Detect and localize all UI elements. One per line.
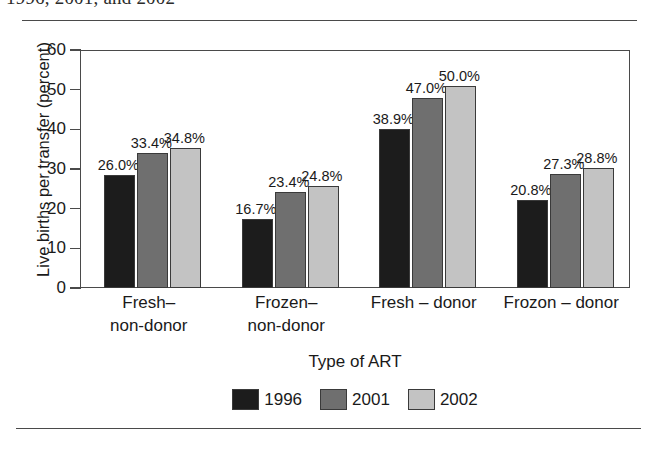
y-axis-tick — [70, 248, 81, 249]
bar-value-label: 34.8% — [164, 131, 205, 146]
y-axis-tick-label: 0 — [22, 279, 66, 296]
bar — [170, 148, 201, 288]
x-axis-category-label-line: non-donor — [70, 315, 228, 338]
y-axis-tick — [70, 168, 81, 169]
y-axis-tick — [70, 287, 81, 288]
bar — [550, 174, 581, 288]
legend-label: 2001 — [352, 391, 390, 408]
bar-value-label: 38.9% — [373, 112, 414, 127]
x-axis-category-label: Frozen–non-donor — [208, 292, 366, 337]
legend-swatch — [320, 389, 347, 410]
x-axis-category-label: Frozon – donor — [483, 292, 641, 315]
bar — [583, 168, 614, 288]
y-axis-tick-label: 40 — [22, 120, 66, 137]
y-axis-tick — [70, 89, 81, 90]
bar — [379, 129, 410, 288]
chart-legend: 199620012002 — [80, 384, 630, 414]
y-axis-tick — [70, 49, 81, 50]
bars-layer: 26.0%33.4%34.8%16.7%23.4%24.8%38.9%47.0%… — [80, 50, 630, 288]
x-axis-category-label-line: Fresh – donor — [345, 292, 503, 315]
x-axis-category-label-line: Frozen– — [208, 292, 366, 315]
x-axis-category-label: Fresh – donor — [345, 292, 503, 315]
x-axis-category-label-line: non-donor — [208, 315, 366, 338]
x-axis-category-labels: Fresh–non-donorFrozen–non-donorFresh – d… — [80, 292, 630, 348]
figure-rule-top — [22, 20, 637, 21]
bar-value-label: 16.7% — [235, 202, 276, 217]
bar-chart: Live births per transfer (percent) 01020… — [0, 22, 659, 422]
bar — [275, 192, 306, 288]
legend-label: 2002 — [440, 391, 478, 408]
x-axis-category-label: Fresh–non-donor — [70, 292, 228, 337]
bar — [242, 219, 273, 288]
y-axis-tick-label: 20 — [22, 200, 66, 217]
legend-item[interactable]: 2002 — [408, 389, 478, 410]
x-axis-category-label-line: Frozon – donor — [483, 292, 641, 315]
figure-rule-bottom — [16, 428, 641, 429]
bar — [445, 86, 476, 288]
bar-value-label: 28.8% — [576, 151, 617, 166]
bar — [517, 200, 548, 288]
figure-caption-text: 1996, 2001, and 2002 — [6, 0, 175, 9]
y-axis-tick-label: 50 — [22, 81, 66, 98]
legend-item[interactable]: 1996 — [232, 389, 302, 410]
bar — [104, 175, 135, 288]
bar — [137, 153, 168, 288]
y-axis-tick-label: 10 — [22, 239, 66, 256]
figure-caption-clipped: 1996, 2001, and 2002 — [0, 0, 659, 12]
x-axis-title: Type of ART — [80, 352, 630, 372]
y-axis-tick-label: 30 — [22, 160, 66, 177]
bar — [308, 186, 339, 288]
legend-swatch — [232, 389, 259, 410]
legend-swatch — [408, 389, 435, 410]
y-axis-tick — [70, 129, 81, 130]
bar-value-label: 26.0% — [98, 158, 139, 173]
y-axis-tick-labels: 0102030405060 — [14, 22, 66, 322]
y-axis-tick-label: 60 — [22, 41, 66, 58]
legend-label: 1996 — [264, 391, 302, 408]
bar-value-label: 50.0% — [439, 69, 480, 84]
bar-value-label: 20.8% — [510, 183, 551, 198]
bar-value-label: 24.8% — [301, 169, 342, 184]
x-axis-category-label-line: Fresh– — [70, 292, 228, 315]
legend-item[interactable]: 2001 — [320, 389, 390, 410]
bar — [412, 98, 443, 288]
y-axis-tick — [70, 208, 81, 209]
